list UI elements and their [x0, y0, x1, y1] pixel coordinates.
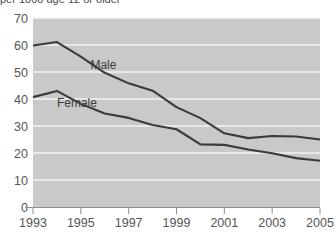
y-tick-label-40: 40 — [14, 93, 28, 107]
y-tick-label-70: 70 — [14, 12, 28, 26]
x-tick-label-2005: 2005 — [306, 216, 334, 230]
y-tick-label-50: 50 — [14, 66, 28, 80]
series-label-female: Female — [57, 96, 97, 110]
x-tick-label-1999: 1999 — [163, 216, 191, 230]
x-axis-tick-marks — [33, 208, 320, 214]
line-chart: 010203040506070 199319951997199920012003… — [0, 0, 336, 235]
plot-area-background — [33, 18, 320, 207]
y-tick-label-10: 10 — [14, 174, 28, 188]
x-tick-label-2001: 2001 — [210, 216, 238, 230]
x-tick-label-1993: 1993 — [19, 216, 47, 230]
y-tick-label-30: 30 — [14, 120, 28, 134]
x-tick-label-2003: 2003 — [258, 216, 286, 230]
chart-container: per 1000 age 12 or older 010203040506070… — [0, 0, 336, 235]
series-label-male: Male — [90, 58, 116, 72]
y-axis-tick-labels: 010203040506070 — [14, 12, 28, 215]
x-axis-tick-labels: 1993199519971999200120032005 — [19, 216, 334, 230]
y-tick-label-20: 20 — [14, 147, 28, 161]
x-tick-label-1995: 1995 — [67, 216, 95, 230]
y-tick-label-60: 60 — [14, 39, 28, 53]
x-tick-label-1997: 1997 — [115, 216, 143, 230]
